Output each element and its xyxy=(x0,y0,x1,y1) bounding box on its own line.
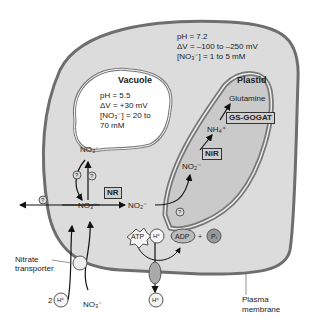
transporter-label-2: transporter xyxy=(15,264,54,273)
vacuole-nitrate-conc-1: [NO₃⁻] = 20 to xyxy=(100,111,151,120)
cytosol-voltage: ΔV = –100 to –250 mV xyxy=(177,42,258,51)
ammonium-label: NH₄⁺ xyxy=(207,125,226,134)
cytosol-nitrate: NO₃⁻ xyxy=(78,201,97,210)
plastid-title: Plastid xyxy=(237,76,267,85)
cytosol-nitrate-conc: [NO₃⁻] = 1 to 5 mM xyxy=(177,52,245,61)
membrane-label-2: membrane xyxy=(242,305,280,314)
proton-pump-icon xyxy=(149,262,161,284)
vacuole-nitrate: NO₃⁻ xyxy=(80,145,99,154)
membrane-label-1: Plasma xyxy=(242,295,269,304)
question-4: ? xyxy=(178,208,181,217)
vacuole-ph: pH = 5.5 xyxy=(100,91,130,100)
nr-enzyme: NR xyxy=(104,187,122,199)
question-2: ? xyxy=(90,172,93,181)
nitrate-ext-label: NO₃⁻ xyxy=(83,300,102,309)
diagram-canvas xyxy=(0,0,314,328)
question-3: ? xyxy=(41,196,44,205)
gs-gogat-enzyme: GS-GOGAT xyxy=(226,112,275,124)
transporter-label-1: Nitrate xyxy=(15,255,39,264)
proton-out-label: H⁺ xyxy=(152,296,159,305)
phosphate-label: Pᵢ xyxy=(211,232,217,241)
plus-label: + xyxy=(198,232,202,241)
vacuole-voltage: ΔV = +30 mV xyxy=(100,101,148,110)
plastid-nitrite: NO₂⁻ xyxy=(182,162,201,171)
proton-ext-label: H⁺ xyxy=(57,296,64,305)
vacuole-title: Vacuole xyxy=(118,76,152,85)
cytosol-nitrite: NO₂⁻ xyxy=(128,201,147,210)
cytosol-ph: pH = 7.2 xyxy=(177,32,207,41)
question-1: ? xyxy=(75,171,78,180)
nitrate-transporter-icon xyxy=(73,256,87,270)
vacuole-nitrate-conc-2: 70 mM xyxy=(100,121,124,130)
atp-label: ATP xyxy=(131,232,144,241)
glutamine-label: Glutamine xyxy=(229,94,265,103)
proton-in-label: H⁺ xyxy=(153,232,160,241)
adp-label: ADP xyxy=(175,232,189,241)
nir-enzyme: NiR xyxy=(202,148,222,160)
proton-count: 2 xyxy=(48,296,52,305)
